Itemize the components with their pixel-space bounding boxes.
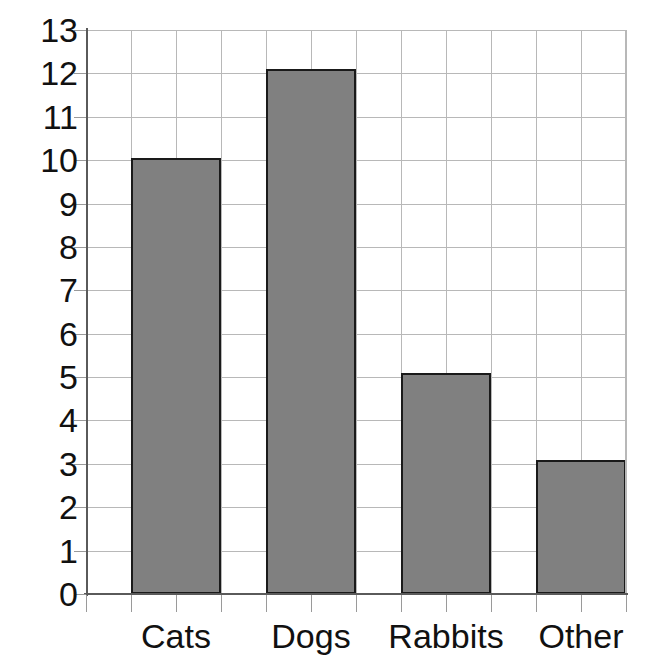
x-axis-label-cats: Cats	[141, 617, 211, 655]
x-axis-label-rabbits: Rabbits	[388, 617, 503, 655]
bar-chart: 012345678910111213 CatsDogsRabbitsOther	[0, 0, 654, 669]
x-axis-label-dogs: Dogs	[271, 617, 350, 655]
x-axis-category-labels: CatsDogsRabbitsOther	[0, 0, 654, 669]
x-axis-label-other: Other	[538, 617, 623, 655]
